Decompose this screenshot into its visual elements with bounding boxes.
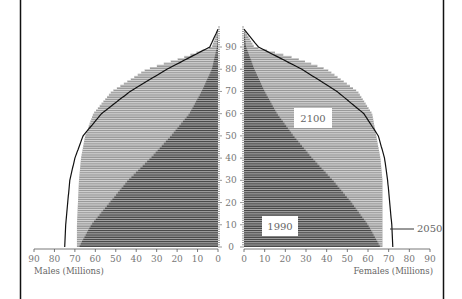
age-tick-label: 90 (225, 42, 237, 52)
female-x-tick-label: 30 (300, 254, 312, 264)
age-tick-label: 50 (225, 131, 237, 141)
age-tick-label: 70 (225, 86, 237, 96)
population-pyramid-chart: 0102030405060708090 00101020203030404050… (0, 0, 462, 299)
age-tick-label: 10 (225, 220, 237, 230)
male-x-tick-label: 30 (151, 254, 163, 264)
male-x-tick-label: 0 (215, 254, 221, 264)
age-tick-label: 60 (225, 109, 237, 119)
female-x-tick-label: 90 (424, 254, 436, 264)
male-x-tick-label: 60 (90, 254, 102, 264)
female-x-tick-label: 70 (383, 254, 395, 264)
male-x-tick-label: 10 (192, 254, 204, 264)
male-x-tick-label: 40 (130, 254, 142, 264)
male-x-tick-label: 80 (49, 254, 61, 264)
female-x-tick-label: 60 (362, 254, 374, 264)
label-1990: 1990 (262, 216, 298, 236)
svg-text:2050: 2050 (417, 223, 442, 234)
female-x-tick-label: 0 (241, 254, 247, 264)
age-tick-label: 40 (225, 153, 237, 163)
age-tick-label: 20 (225, 198, 237, 208)
age-axis: 0102030405060708090 (218, 27, 244, 252)
age-tick-label: 0 (228, 242, 234, 252)
female-x-tick-label: 50 (342, 254, 354, 264)
male-x-tick-label: 70 (69, 254, 81, 264)
svg-text:2100: 2100 (300, 113, 325, 124)
male-x-tick-label: 20 (171, 254, 183, 264)
age-tick-label: 30 (225, 175, 237, 185)
female-x-tick-label: 40 (321, 254, 333, 264)
males-axis-title: Males (Millions) (34, 266, 104, 276)
label-2050: 2050 (390, 223, 442, 234)
female-x-tick-label: 20 (280, 254, 292, 264)
age-tick-label: 80 (225, 64, 237, 74)
female-x-tick-label: 80 (404, 254, 416, 264)
male-x-tick-label: 90 (28, 254, 40, 264)
svg-text:1990: 1990 (267, 221, 292, 232)
female-x-tick-label: 10 (259, 254, 271, 264)
male-x-tick-label: 50 (110, 254, 122, 264)
females-axis-title: Females (Millions) (353, 266, 433, 276)
label-2100: 2100 (294, 108, 332, 128)
